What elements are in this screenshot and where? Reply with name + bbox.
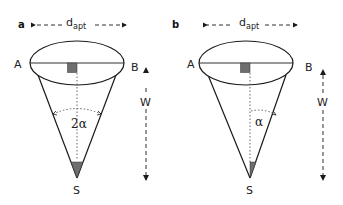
panel-b-graphic (199, 25, 330, 181)
panel-label-b: b (172, 20, 179, 30)
cone-side-left-b (208, 75, 250, 178)
aperture-label-b: dapt (239, 17, 259, 31)
aperture-square-a (68, 63, 78, 73)
point-a-left-label: A (14, 59, 22, 70)
aperture-square-b (241, 63, 251, 73)
height-label-a: W (140, 97, 151, 108)
apex-wedge-a (71, 162, 83, 178)
aperture-label-a: dapt (66, 17, 86, 31)
aperture-symbol-b: d (239, 16, 246, 29)
aperture-symbol-a: d (66, 16, 73, 29)
apex-label-a: S (73, 185, 80, 196)
point-a-right-label: A (187, 59, 195, 70)
height-label-b: W (317, 97, 328, 108)
angle-label-a: 2α (71, 118, 87, 130)
cone-diagram-canvas (0, 0, 343, 205)
panel-label-a: a (18, 20, 25, 30)
aperture-subscript-a: apt (73, 22, 86, 31)
point-b-right-label: B (305, 62, 313, 73)
apex-label-b: S (246, 185, 253, 196)
point-b-left-label: B (131, 62, 139, 73)
apex-wedge-b (250, 162, 256, 178)
panel-a-graphic (30, 25, 153, 181)
angle-label-b: α (255, 116, 263, 128)
aperture-subscript-b: apt (246, 22, 259, 31)
